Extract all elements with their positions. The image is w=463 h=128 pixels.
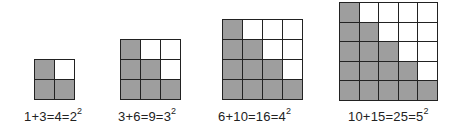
filled-cell — [340, 42, 359, 61]
filled-cell — [223, 20, 242, 39]
filled-cell — [360, 81, 379, 100]
square-grid-5x5 — [339, 2, 438, 101]
filled-cell — [141, 80, 160, 99]
filled-cell — [379, 42, 398, 61]
filled-cell — [418, 81, 437, 100]
empty-cell — [141, 40, 160, 59]
empty-cell — [55, 60, 74, 79]
equation-label: 10+15=25=52 — [348, 108, 429, 124]
filled-cell — [283, 80, 302, 99]
filled-cell — [121, 80, 140, 99]
empty-cell — [283, 40, 302, 59]
equation-label: 6+10=16=42 — [218, 108, 291, 124]
filled-cell — [360, 42, 379, 61]
empty-cell — [418, 62, 437, 81]
empty-cell — [379, 3, 398, 22]
filled-cell — [243, 40, 262, 59]
equation-text: 10+15=25=5 — [348, 109, 423, 124]
empty-cell — [418, 42, 437, 61]
filled-cell — [161, 80, 180, 99]
filled-cell — [399, 62, 418, 81]
equation-text: 6+10=16=4 — [218, 109, 286, 124]
equation-label: 3+6=9=32 — [118, 108, 176, 124]
empty-cell — [161, 40, 180, 59]
filled-cell — [340, 3, 359, 22]
exponent: 2 — [171, 106, 176, 116]
filled-cell — [121, 60, 140, 79]
filled-cell — [340, 23, 359, 42]
filled-cell — [340, 81, 359, 100]
equation-text: 1+3=4=2 — [24, 109, 77, 124]
empty-cell — [360, 3, 379, 22]
filled-cell — [399, 81, 418, 100]
empty-cell — [399, 42, 418, 61]
filled-cell — [263, 80, 282, 99]
empty-cell — [243, 20, 262, 39]
filled-cell — [223, 60, 242, 79]
filled-cell — [121, 40, 140, 59]
filled-cell — [379, 62, 398, 81]
filled-cell — [141, 60, 160, 79]
exponent: 2 — [77, 106, 82, 116]
empty-cell — [399, 23, 418, 42]
empty-cell — [418, 3, 437, 22]
filled-cell — [223, 80, 242, 99]
empty-cell — [263, 20, 282, 39]
exponent: 2 — [423, 106, 428, 116]
equation-label: 1+3=4=22 — [24, 108, 82, 124]
filled-cell — [360, 62, 379, 81]
square-grid-4x4 — [222, 19, 303, 100]
filled-cell — [35, 60, 54, 79]
equation-text: 3+6=9=3 — [118, 109, 171, 124]
empty-cell — [161, 60, 180, 79]
filled-cell — [340, 62, 359, 81]
filled-cell — [35, 80, 54, 99]
exponent: 2 — [286, 106, 291, 116]
filled-cell — [243, 80, 262, 99]
empty-cell — [283, 60, 302, 79]
filled-cell — [243, 60, 262, 79]
empty-cell — [418, 23, 437, 42]
filled-cell — [55, 80, 74, 99]
filled-cell — [263, 60, 282, 79]
square-grid-2x2 — [34, 59, 75, 100]
square-grid-3x3 — [120, 39, 181, 100]
filled-cell — [379, 81, 398, 100]
empty-cell — [283, 20, 302, 39]
empty-cell — [263, 40, 282, 59]
filled-cell — [223, 40, 242, 59]
empty-cell — [379, 23, 398, 42]
filled-cell — [360, 23, 379, 42]
empty-cell — [399, 3, 418, 22]
